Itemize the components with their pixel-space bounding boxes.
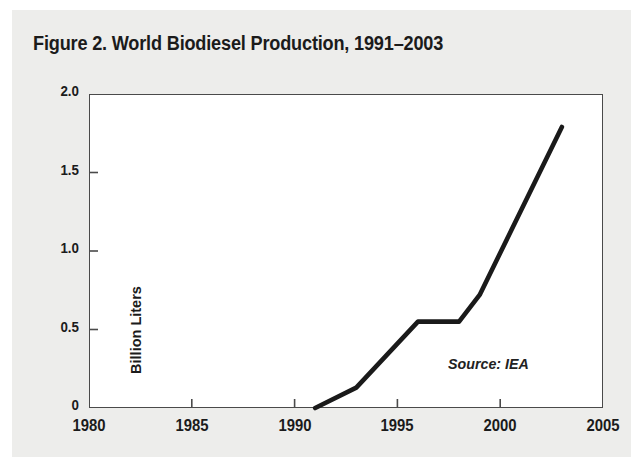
y-axis-tick-label: 0 xyxy=(24,397,79,413)
y-axis-tick-label: 0.5 xyxy=(24,319,79,335)
y-axis-tick-label: 1.0 xyxy=(24,240,79,256)
y-axis-tick-label: 2.0 xyxy=(24,83,79,99)
y-axis-title: Billion Liters xyxy=(128,250,144,410)
x-axis-tick-label: 1990 xyxy=(254,416,335,435)
figure-root: Figure 2. World Biodiesel Production, 19… xyxy=(0,0,643,469)
x-axis-tick-label: 1995 xyxy=(357,416,438,435)
y-axis-tick-label: 1.5 xyxy=(24,162,79,178)
x-axis-tick-label: 2000 xyxy=(460,416,541,435)
x-axis-tick-label: 1980 xyxy=(49,416,130,435)
x-axis-tick-label: 2005 xyxy=(563,416,643,435)
x-axis-tick-label: 1985 xyxy=(151,416,232,435)
page-title: Figure 2. World Biodiesel Production, 19… xyxy=(33,32,554,55)
source-annotation: Source: IEA xyxy=(448,355,529,372)
